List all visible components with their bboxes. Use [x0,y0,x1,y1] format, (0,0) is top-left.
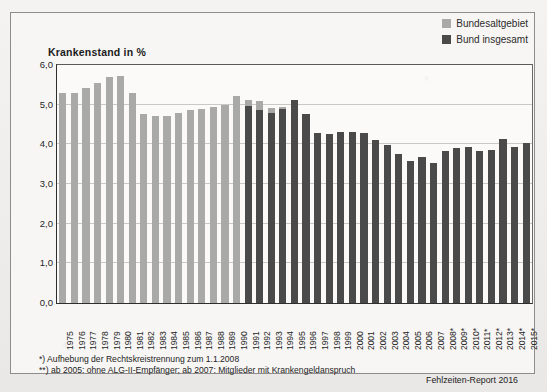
bar-bundesaltgebiet-1987 [198,109,205,303]
bar-group [57,65,532,303]
footnotes: *) Aufhebung der Rechtskreistrennung zum… [39,354,355,376]
bar-slot [488,65,495,303]
bar-bund-insgesamt-1995 [291,100,298,303]
x-axis-tick-label: 1994 [285,331,295,350]
bar-slot [511,65,518,303]
footnote-line-2: **) ab 2005: ohne ALG-II-Empfänger; ab 2… [39,365,355,376]
x-axis-tick-label: 1983 [158,331,168,350]
y-axis: 0,01,02,03,04,05,06,0 [11,64,53,304]
bar-slot [256,65,263,303]
bar-bundesaltgebiet-1990 [233,96,240,303]
bar-slot [175,65,182,303]
bar-slot [59,65,66,303]
bar-bund-insgesamt-2000 [349,132,356,303]
bar-bund-insgesamt-2007 [430,163,437,303]
x-axis-tick-label: 1985 [181,331,191,350]
x-axis-tick-label: 1975 [65,331,75,350]
plot-area [56,64,533,304]
bar-bund-insgesamt-2008 [442,151,449,303]
x-axis-tick-label: 2006 [424,331,434,350]
x-axis-tick-label: 2015* [529,328,539,350]
x-axis-tick-label: 1980 [123,331,133,350]
x-axis-tick-label: 1982 [146,331,156,350]
bar-slot [233,65,240,303]
bar-bund-insgesamt-2015 [523,143,530,303]
x-axis-tick-label: 2014* [517,328,527,350]
bar-slot [268,65,275,303]
x-axis-tick-label: 1991 [251,331,261,350]
y-axis-tick-label: 3,0 [13,178,53,189]
x-axis-tick-label: 1998 [332,331,342,350]
bar-slot [94,65,101,303]
bar-slot [418,65,425,303]
x-axis-tick-label: 1988 [216,331,226,350]
scanned-page: Bundesaltgebiet Bund insgesamt Krankenst… [0,0,547,392]
bar-slot [499,65,506,303]
x-axis-tick-label: 1995 [297,331,307,350]
bar-bund-insgesamt-2003 [384,145,391,303]
x-axis-tick-label: 2008* [448,328,458,350]
x-axis-tick-label: 1979 [112,331,122,350]
x-axis-tick-label: 1984 [169,331,179,350]
y-axis-tick-label: 0,0 [13,297,53,308]
y-axis-tick-label: 2,0 [13,217,53,228]
bar-bund-insgesamt-1993 [268,113,275,303]
x-axis-tick-label: 2000 [355,331,365,350]
x-axis-tick-label: 1978 [100,331,110,350]
bar-bund-insgesamt-2006 [418,157,425,303]
bar-bundesaltgebiet-1982 [140,114,147,303]
bar-bund-insgesamt-2010 [465,147,472,303]
bar-slot [152,65,159,303]
legend-label-bund-insgesamt: Bund insgesamt [456,33,528,46]
bar-slot [523,65,530,303]
bar-slot [372,65,379,303]
source-attribution: Fehlzeiten-Report 2016 [426,375,518,385]
x-axis-tick-label: 1993 [274,331,284,350]
bar-bundesaltgebiet-1975 [59,93,66,303]
legend-label-bundesaltgebiet: Bundesaltgebiet [456,17,528,30]
footnote-line-1: *) Aufhebung der Rechtskreistrennung zum… [39,354,355,365]
x-axis-tick-label: 1989 [227,331,237,350]
bar-slot [337,65,344,303]
bar-slot [140,65,147,303]
bar-slot [349,65,356,303]
bar-slot [106,65,113,303]
bar-slot [245,65,252,303]
bar-bundesaltgebiet-1984 [163,116,170,303]
x-axis-tick-label: 1992 [262,331,272,350]
bar-bund-insgesamt-2002 [372,140,379,303]
x-axis-tick-label: 1977 [88,331,98,350]
bar-slot [129,65,136,303]
chart-title: Krankenstand in % [48,46,146,58]
bar-slot [187,65,194,303]
bar-bund-insgesamt-2013 [499,139,506,303]
chart-legend: Bundesaltgebiet Bund insgesamt [442,17,528,49]
bar-bundesaltgebiet-1977 [82,88,89,303]
x-axis-tick-label: 1987 [204,331,214,350]
bar-slot [453,65,460,303]
bar-slot [163,65,170,303]
x-axis-tick-label: 2004 [401,331,411,350]
figure-frame: Bundesaltgebiet Bund insgesamt Krankenst… [10,12,535,374]
bar-bund-insgesamt-1996 [302,114,309,303]
x-axis-tick-label: 2009* [459,328,469,350]
bar-slot [210,65,217,303]
legend-swatch-bundesaltgebiet [442,19,451,28]
x-axis-tick-label: 2005 [413,331,423,350]
y-axis-tick-label: 1,0 [13,257,53,268]
bar-slot [430,65,437,303]
legend-item-bund-insgesamt: Bund insgesamt [442,33,528,46]
bar-bundesaltgebiet-1980 [117,76,124,303]
bar-bund-insgesamt-2014 [511,147,518,303]
bar-slot [384,65,391,303]
bar-bundesaltgebiet-1978 [94,83,101,303]
bar-bund-insgesamt-1998 [326,134,333,303]
bar-bundesaltgebiet-1986 [187,110,194,303]
bar-bund-insgesamt-1999 [337,132,344,303]
bar-slot [82,65,89,303]
bar-slot [291,65,298,303]
bar-bund-insgesamt-1992 [256,110,263,303]
bar-slot [395,65,402,303]
x-axis-tick-label: 2013* [505,328,515,350]
bar-bund-insgesamt-1997 [314,133,321,303]
